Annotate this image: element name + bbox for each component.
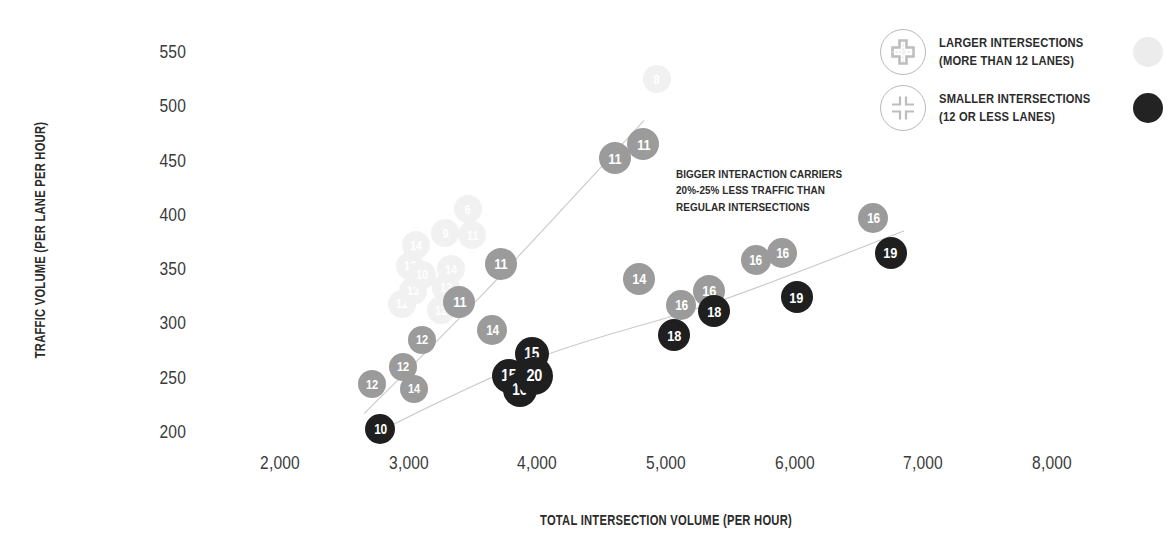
data-point-label: 12 <box>416 333 428 346</box>
data-point-bubble[interactable]: 11 <box>458 221 486 249</box>
data-point-bubble[interactable]: 11 <box>485 248 517 280</box>
x-tick-label: 5,000 <box>621 452 711 474</box>
data-point-bubble[interactable]: 11 <box>443 286 475 318</box>
data-point-label: 19 <box>884 245 898 260</box>
x-tick-label: 4,000 <box>492 452 582 474</box>
y-tick-label: 200 <box>132 421 186 443</box>
data-point-label: 16 <box>675 298 688 312</box>
legend-label-larger: LARGER INTERSECTIONS (MORE THAN 12 LANES… <box>939 34 1102 70</box>
data-point-label: 19 <box>790 290 804 305</box>
data-point-bubble[interactable]: 6 <box>454 195 482 223</box>
data-point-label: 18 <box>667 328 681 343</box>
data-point-bubble[interactable]: 16 <box>767 238 797 268</box>
data-point-label: 10 <box>416 268 428 281</box>
data-point-label: 11 <box>609 151 622 166</box>
data-point-label: 14 <box>408 382 420 395</box>
data-point-bubble[interactable]: 14 <box>477 315 507 345</box>
data-point-bubble[interactable]: 16 <box>666 290 696 320</box>
data-point-label: 16 <box>776 246 789 260</box>
y-tick-label: 250 <box>132 367 186 389</box>
data-point-bubble[interactable]: 11 <box>599 142 631 174</box>
data-point-label: 11 <box>494 256 507 271</box>
data-point-label: 14 <box>445 263 457 276</box>
data-point-label: 10 <box>374 422 387 436</box>
data-point-bubble[interactable]: 12 <box>408 326 436 354</box>
y-tick-label: 550 <box>132 41 186 63</box>
data-point-label: 16 <box>867 211 880 225</box>
x-tick-label: 3,000 <box>364 452 454 474</box>
scatter-chart: TRAFFIC VOLUME (PER LANE PER HOUR) 20025… <box>0 0 1168 545</box>
data-point-bubble[interactable]: 19 <box>781 281 813 313</box>
x-axis-title: TOTAL INTERSECTION VOLUME (PER HOUR) <box>506 512 826 528</box>
data-point-bubble[interactable]: 8 <box>643 65 671 93</box>
data-point-label: 14 <box>410 239 422 252</box>
data-point-bubble[interactable]: 12 <box>358 370 386 398</box>
data-point-bubble[interactable]: 16 <box>858 203 888 233</box>
data-point-label: 9 <box>442 227 448 240</box>
data-point-label: 8 <box>654 73 660 86</box>
legend-larger-line-1: LARGER INTERSECTIONS <box>939 34 1102 52</box>
data-point-bubble[interactable]: 14 <box>437 255 465 283</box>
data-point-bubble[interactable]: 14 <box>623 263 655 295</box>
x-tick-label: 6,000 <box>750 452 840 474</box>
legend-swatch-smaller <box>1133 93 1163 123</box>
data-point-bubble[interactable]: 14 <box>402 231 430 259</box>
legend-smaller-line-2: (12 OR LESS LANES) <box>939 108 1102 126</box>
chart-legend: LARGER INTERSECTIONS (MORE THAN 12 LANES… <box>880 24 1165 136</box>
large-intersection-icon <box>880 29 926 75</box>
data-point-bubble[interactable]: 10 <box>365 414 395 444</box>
data-point-label: 14 <box>632 271 646 286</box>
data-point-bubble[interactable]: 9 <box>431 219 459 247</box>
legend-item-larger-intersections[interactable]: LARGER INTERSECTIONS (MORE THAN 12 LANES… <box>880 24 1165 80</box>
data-point-label: 14 <box>486 323 499 337</box>
data-point-bubble[interactable]: 18 <box>698 295 730 327</box>
data-point-label: 12 <box>366 378 378 391</box>
legend-smaller-line-1: SMALLER INTERSECTIONS <box>939 90 1102 108</box>
x-tick-label: 2,000 <box>235 452 325 474</box>
annotation-line-1: BIGGER INTERACTION CARRIERS <box>676 166 842 182</box>
data-point-label: 18 <box>707 304 721 319</box>
y-tick-label: 450 <box>132 150 186 172</box>
data-point-label: 20 <box>526 367 542 384</box>
x-tick-label: 8,000 <box>1007 452 1097 474</box>
chart-annotation: BIGGER INTERACTION CARRIERS 20%-25% LESS… <box>676 166 842 215</box>
legend-swatch-larger <box>1133 37 1163 67</box>
data-point-bubble[interactable]: 20 <box>515 357 553 395</box>
data-point-label: 16 <box>750 253 763 267</box>
legend-item-smaller-intersections[interactable]: SMALLER INTERSECTIONS (12 OR LESS LANES) <box>880 80 1165 136</box>
legend-larger-line-2: (MORE THAN 12 LANES) <box>939 52 1102 70</box>
y-tick-label: 350 <box>132 258 186 280</box>
legend-label-smaller: SMALLER INTERSECTIONS (12 OR LESS LANES) <box>939 90 1102 126</box>
data-point-label: 6 <box>465 203 471 216</box>
y-tick-label: 500 <box>132 95 186 117</box>
x-tick-label: 7,000 <box>878 452 968 474</box>
data-point-label: 11 <box>637 137 650 152</box>
data-point-label: 11 <box>467 229 478 242</box>
data-point-bubble[interactable]: 19 <box>875 237 907 269</box>
data-point-label: 11 <box>453 294 466 309</box>
data-point-label: 12 <box>397 360 409 373</box>
data-point-bubble[interactable]: 11 <box>627 128 659 160</box>
y-tick-label: 300 <box>132 312 186 334</box>
annotation-line-2: 20%-25% LESS TRAFFIC THAN <box>676 182 842 198</box>
y-axis-title: TRAFFIC VOLUME (PER LANE PER HOUR) <box>32 120 48 360</box>
annotation-line-3: REGULAR INTERSECTIONS <box>676 199 842 215</box>
y-tick-label: 400 <box>132 204 186 226</box>
data-point-bubble[interactable]: 18 <box>658 319 690 351</box>
small-intersection-icon <box>880 85 926 131</box>
data-point-bubble[interactable]: 14 <box>400 375 428 403</box>
